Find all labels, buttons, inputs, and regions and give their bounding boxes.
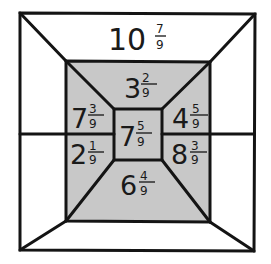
numerator: 1 (89, 139, 97, 153)
whole-number: 10 (108, 22, 146, 57)
denominator: 9 (89, 153, 97, 167)
numerator: 7 (156, 22, 164, 36)
denominator: 9 (137, 135, 145, 149)
numerator: 5 (192, 102, 200, 116)
whole-number: 7 (71, 103, 88, 134)
numerator: 4 (140, 169, 148, 183)
denominator: 9 (156, 38, 164, 52)
denominator: 9 (191, 153, 199, 167)
denominator: 9 (142, 86, 150, 100)
whole-number: 6 (120, 170, 137, 201)
whole-number: 4 (172, 103, 189, 134)
label-outer-top: 10 7 9 (108, 22, 166, 57)
denominator: 9 (89, 117, 97, 131)
numerator: 2 (142, 71, 150, 85)
numerator: 3 (89, 102, 97, 116)
whole-number: 3 (124, 73, 141, 104)
whole-number: 7 (119, 121, 136, 152)
nested-squares-diagram: 10 7 9 3 2 9 7 3 9 4 5 9 7 5 9 2 1 9 8 (0, 0, 271, 264)
denominator: 9 (140, 184, 148, 198)
whole-number: 2 (70, 139, 87, 170)
diagonal-top-left-outer (20, 13, 66, 61)
diagonal-top-right-outer (210, 14, 255, 62)
numerator: 3 (191, 139, 199, 153)
denominator: 9 (192, 117, 200, 131)
whole-number: 8 (171, 139, 188, 170)
diagonal-bottom-left-outer (20, 221, 66, 250)
diagonal-bottom-right-outer (210, 222, 254, 251)
numerator: 5 (137, 119, 145, 133)
